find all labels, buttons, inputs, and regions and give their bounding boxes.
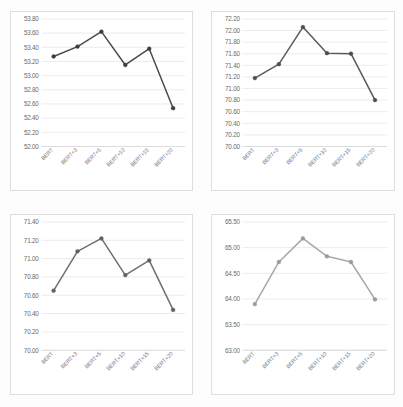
y-axis-tick-label: 65.00	[225, 244, 241, 251]
y-axis-tick-label: 70.20	[24, 328, 39, 335]
y-axis-tick-label: 53.00	[24, 72, 39, 79]
data-point-marker	[325, 254, 329, 258]
y-axis-tick-label: 70.60	[24, 292, 39, 299]
y-axis-tick-label: 70.40	[24, 310, 39, 317]
data-point-marker	[349, 260, 353, 264]
data-point-marker	[325, 51, 329, 55]
x-axis-tick-label: BERT	[40, 350, 55, 365]
data-point-marker	[253, 302, 257, 306]
x-axis-tick-label: BERT+15	[331, 351, 352, 372]
y-axis-tick-label: 52.20	[24, 129, 39, 136]
chart-svg-bottom-left: 70.0070.2070.4070.6070.8071.0071.2071.40…	[11, 215, 192, 394]
y-axis-tick-label: 72.00	[225, 27, 241, 34]
y-axis-tick-label: 65.50	[225, 218, 241, 225]
chart-panel-top-right: 70.0070.2070.4070.6070.8071.0071.2071.40…	[201, 0, 403, 203]
y-axis-tick-label: 70.20	[225, 131, 241, 138]
data-point-marker	[171, 106, 175, 110]
plot-frame-bottom-left: 70.0070.2070.4070.6070.8071.0071.2071.40…	[10, 214, 193, 395]
x-axis-tick-label: BERT+5	[83, 351, 102, 370]
y-axis-tick-label: 70.00	[24, 347, 39, 354]
y-axis-tick-label: 71.80	[225, 38, 241, 45]
data-point-marker	[253, 76, 257, 80]
chart-panel-top-left: 52.0052.2052.4052.6052.8053.0053.2053.40…	[0, 0, 201, 203]
x-axis-tick-label: BERT+10	[307, 351, 328, 372]
x-axis-tick-label: BERT	[241, 146, 256, 161]
data-point-marker	[373, 298, 377, 302]
y-axis-tick-label: 71.00	[24, 255, 39, 262]
x-axis-tick-label: BERT+3	[261, 147, 280, 166]
data-point-marker	[301, 236, 305, 240]
x-axis-tick-label: BERT+10	[105, 351, 126, 372]
x-axis-tick-label: BERT+15	[129, 147, 150, 168]
x-axis-tick-label: BERT+3	[261, 351, 280, 370]
x-axis-tick-label: BERT+20	[355, 147, 376, 168]
data-point-marker	[123, 273, 127, 277]
y-axis-tick-label: 70.00	[225, 143, 241, 150]
y-axis-tick-label: 64.50	[225, 270, 241, 277]
x-axis-tick-label: BERT+5	[285, 351, 304, 370]
y-axis-tick-label: 71.20	[24, 237, 39, 244]
x-axis-tick-label: BERT+15	[331, 147, 352, 168]
chart-svg-top-right: 70.0070.2070.4070.6070.8071.0071.2071.40…	[212, 12, 394, 190]
data-point-marker	[76, 249, 80, 253]
x-axis-tick-label: BERT+3	[60, 147, 79, 166]
y-axis-tick-label: 71.20	[225, 73, 241, 80]
data-point-marker	[100, 30, 104, 34]
data-point-marker	[277, 260, 281, 264]
four-panel-line-chart-figure: 52.0052.2052.4052.6052.8053.0053.2053.40…	[0, 0, 403, 407]
data-point-marker	[147, 259, 151, 263]
x-axis-tick-label: BERT+20	[153, 351, 174, 372]
data-point-marker	[52, 55, 56, 59]
plot-frame-top-left: 52.0052.2052.4052.6052.8053.0053.2053.40…	[10, 11, 193, 191]
gridlines	[42, 222, 185, 350]
chart-panel-bottom-right: 63.0063.5064.0064.5065.0065.50BERTBERT+3…	[201, 203, 403, 407]
x-axis-tick-label: BERT+5	[84, 147, 103, 166]
y-axis-tick-label: 63.00	[225, 347, 241, 354]
y-axis-tick-label: 63.50	[225, 321, 241, 328]
x-axis-tick-label: BERT+10	[105, 147, 126, 168]
data-point-marker	[123, 63, 127, 67]
plot-frame-bottom-right: 63.0063.5064.0064.5065.0065.50BERTBERT+3…	[211, 214, 395, 395]
y-axis-tick-label: 70.80	[24, 273, 39, 280]
y-axis-tick-label: 71.00	[225, 85, 241, 92]
y-axis-tick-label: 53.20	[24, 58, 39, 65]
y-axis-tick-label: 71.60	[225, 50, 241, 57]
x-axis-tick-label: BERT	[241, 350, 256, 365]
x-axis-tick-label: BERT+15	[129, 351, 150, 372]
y-axis-tick-label: 52.40	[24, 114, 39, 121]
y-axis-tick-label: 70.60	[225, 108, 241, 115]
series-line	[54, 32, 174, 109]
data-point-marker	[349, 52, 353, 56]
data-point-marker	[373, 98, 377, 102]
chart-svg-top-left: 52.0052.2052.4052.6052.8053.0053.2053.40…	[11, 12, 192, 190]
data-point-marker	[76, 45, 80, 49]
y-axis-tick-label: 53.60	[24, 29, 39, 36]
y-axis-tick-label: 53.80	[24, 15, 39, 22]
y-axis-tick-label: 52.60	[24, 100, 39, 107]
data-point-marker	[171, 308, 175, 312]
x-axis-tick-label: BERT+20	[153, 147, 174, 168]
x-axis-tick-label: BERT+5	[285, 147, 304, 166]
x-axis-tick-label: BERT	[40, 146, 55, 161]
series-line	[255, 238, 375, 304]
plot-frame-top-right: 70.0070.2070.4070.6070.8071.0071.2071.40…	[211, 11, 395, 191]
data-point-marker	[147, 47, 151, 51]
data-point-marker	[100, 237, 104, 241]
y-axis-tick-label: 70.80	[225, 96, 241, 103]
y-axis-tick-label: 71.40	[24, 218, 39, 225]
chart-svg-bottom-right: 63.0063.5064.0064.5065.0065.50BERTBERT+3…	[212, 215, 394, 394]
data-point-marker	[52, 289, 56, 293]
chart-panel-bottom-left: 70.0070.2070.4070.6070.8071.0071.2071.40…	[0, 203, 201, 407]
series-line	[54, 238, 174, 309]
y-axis-tick-label: 72.20	[225, 15, 241, 22]
y-axis-tick-label: 71.40	[225, 62, 241, 69]
x-axis-tick-label: BERT+20	[355, 351, 376, 372]
y-axis-tick-label: 52.80	[24, 86, 39, 93]
data-point-marker	[277, 62, 281, 66]
y-axis-tick-label: 53.40	[24, 44, 39, 51]
x-axis-tick-label: BERT+3	[60, 351, 79, 370]
x-axis-tick-label: BERT+10	[307, 147, 328, 168]
series-line	[255, 27, 375, 100]
y-axis-tick-label: 64.00	[225, 295, 241, 302]
data-point-marker	[301, 25, 305, 29]
